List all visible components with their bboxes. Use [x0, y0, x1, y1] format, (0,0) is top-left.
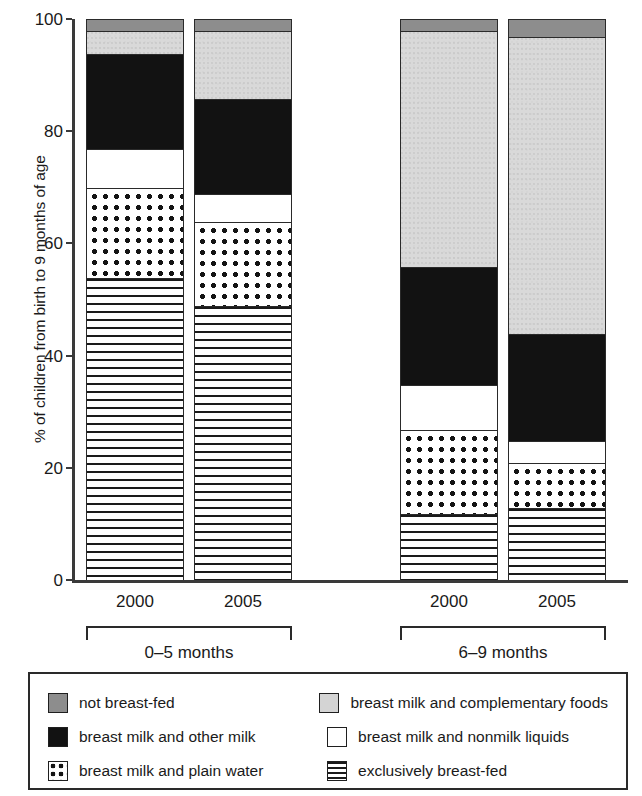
stacked-bar	[194, 19, 292, 580]
legend-label: exclusively breast-fed	[358, 762, 507, 780]
plot-area: 020406080100	[72, 19, 628, 580]
legend-row: breast milk and plain waterexclusively b…	[48, 754, 608, 788]
stacked-bar	[508, 19, 606, 580]
x-tick-label: 2005	[188, 592, 298, 612]
y-tick-mark	[66, 18, 72, 20]
bar-segment-water	[509, 463, 605, 508]
bar-segment-water	[195, 222, 291, 306]
bar-segment-compl	[401, 31, 497, 267]
y-tick-label: 60	[17, 235, 63, 252]
bar-segment-excl	[195, 306, 291, 580]
legend-swatch-othermilk-icon	[48, 727, 68, 747]
legend-label: breast milk and other milk	[79, 728, 256, 746]
bar-segment-othermilk	[509, 334, 605, 441]
bar-segment-nonmilk	[195, 194, 291, 222]
x-tick-label: 2000	[80, 592, 190, 612]
bar-segment-excl	[87, 278, 183, 580]
group-bracket	[400, 628, 606, 640]
legend-label: breast milk and nonmilk liquids	[358, 728, 569, 746]
legend-swatch-compl-icon	[319, 693, 339, 713]
bar-segment-othermilk	[87, 54, 183, 149]
legend-swatch-nonmilk-icon	[327, 727, 347, 747]
group-label: 6–9 months	[400, 643, 606, 663]
y-tick-label: 0	[17, 572, 63, 589]
bar-segment-nonmilk	[401, 385, 497, 430]
bar-segment-notbf	[401, 20, 497, 31]
y-tick-mark	[66, 355, 72, 357]
legend-item-excl[interactable]: exclusively breast-fed	[327, 761, 608, 781]
legend-row: breast milk and other milkbreast milk an…	[48, 720, 608, 754]
group-label: 0–5 months	[86, 643, 292, 663]
y-tick-mark	[66, 579, 72, 581]
bar-segment-notbf	[195, 20, 291, 31]
y-tick-label: 80	[17, 123, 63, 140]
legend-row: not breast-fedbreast milk and complement…	[48, 686, 608, 720]
bar-segment-notbf	[87, 20, 183, 31]
y-tick-mark	[66, 130, 72, 132]
bar-segment-othermilk	[195, 99, 291, 194]
legend-item-nonmilk[interactable]: breast milk and nonmilk liquids	[327, 727, 608, 747]
legend-item-notbf[interactable]: not breast-fed	[48, 693, 319, 713]
x-tick-label: 2005	[502, 592, 612, 612]
legend-label: breast milk and plain water	[79, 762, 263, 780]
bar-segment-compl	[509, 37, 605, 334]
bar-segment-water	[87, 188, 183, 278]
y-tick-label: 20	[17, 459, 63, 476]
y-tick-label: 40	[17, 347, 63, 364]
stacked-bar	[400, 19, 498, 580]
bar-segment-othermilk	[401, 267, 497, 385]
bar-segment-compl	[195, 31, 291, 98]
bar-segment-nonmilk	[509, 441, 605, 463]
stacked-bar	[86, 19, 184, 580]
legend-label: breast milk and complementary foods	[350, 694, 608, 712]
bar-segment-excl	[401, 514, 497, 580]
legend-item-othermilk[interactable]: breast milk and other milk	[48, 727, 327, 747]
legend-label: not breast-fed	[79, 694, 175, 712]
bar-segment-notbf	[509, 20, 605, 37]
chart-figure: % of children from birth to 9 months of …	[0, 0, 642, 796]
bar-segment-nonmilk	[87, 149, 183, 188]
x-tick-label: 2000	[394, 592, 504, 612]
bar-segment-compl	[87, 31, 183, 53]
legend-item-compl[interactable]: breast milk and complementary foods	[319, 693, 608, 713]
legend-box: not breast-fedbreast milk and complement…	[28, 672, 628, 790]
group-bracket	[86, 628, 292, 640]
y-tick-mark	[66, 467, 72, 469]
legend-swatch-excl-icon	[327, 761, 347, 781]
y-tick-label: 100	[17, 11, 63, 28]
bar-segment-excl	[509, 508, 605, 580]
y-axis-line	[72, 19, 75, 580]
x-axis-line	[72, 580, 628, 583]
legend-swatch-water-icon	[48, 761, 68, 781]
legend-item-water[interactable]: breast milk and plain water	[48, 761, 327, 781]
legend-swatch-notbf-icon	[48, 693, 68, 713]
bar-segment-water	[401, 430, 497, 514]
y-tick-mark	[66, 242, 72, 244]
